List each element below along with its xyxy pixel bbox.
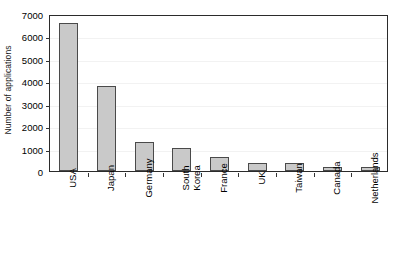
- bar-chart: Number of applications 01000200030004000…: [0, 0, 406, 257]
- x-axis-tick-label: Canada: [325, 178, 339, 256]
- x-axis-tick-label-text: Taiwan: [294, 163, 305, 193]
- y-axis-title-text: Number of applications: [3, 45, 13, 134]
- bar: [97, 86, 116, 171]
- x-axis-tick-label: Germany: [136, 178, 150, 256]
- y-axis-tick-mark: [46, 61, 50, 62]
- y-axis-tick-label: 2000: [22, 122, 43, 133]
- x-axis-tick-label: France: [212, 178, 226, 256]
- y-axis-tick-mark: [46, 128, 50, 129]
- y-axis-tick-label: 5000: [22, 54, 43, 65]
- y-axis-tick-mark: [46, 83, 50, 84]
- bar: [59, 23, 78, 171]
- x-axis-tick-label: Taiwan: [287, 178, 301, 256]
- y-axis-title: Number of applications: [0, 0, 16, 180]
- y-axis-tick-labels: 01000200030004000500060007000: [16, 15, 45, 172]
- x-axis-tick-label-text: France: [219, 163, 230, 193]
- x-axis-tick-label: Netherlands: [362, 178, 376, 256]
- x-axis-tick-label-text: Germany: [143, 158, 154, 197]
- bar: [248, 163, 267, 171]
- y-axis-tick-mark: [46, 38, 50, 39]
- x-axis-tick-mark: [88, 173, 89, 177]
- x-axis-tick-mark: [163, 173, 164, 177]
- y-axis-tick-label: 7000: [22, 10, 43, 21]
- y-axis-tick-mark: [46, 106, 50, 107]
- x-axis-tick-mark: [238, 173, 239, 177]
- x-axis-tick-label: Japan: [99, 178, 113, 256]
- x-axis-tick-label: UK: [249, 178, 263, 256]
- x-axis-tick-label-text: Canada: [332, 161, 343, 194]
- x-axis-tick-label: USA: [61, 178, 75, 256]
- plot-area: [49, 15, 388, 172]
- x-axis-tick-label-text: Netherlands: [369, 152, 380, 203]
- x-axis-tick-mark: [314, 173, 315, 177]
- x-axis-tick-labels: USAJapanGermanySouthKoreaFranceUKTaiwanC…: [49, 178, 388, 257]
- x-axis-tick-mark: [351, 173, 352, 177]
- x-axis-tick-label-text: UK: [256, 171, 267, 184]
- x-axis-tick-mark: [276, 173, 277, 177]
- x-axis-tick-label-text: USA: [68, 168, 79, 188]
- x-axis-tick-mark: [125, 173, 126, 177]
- x-axis-tick-label-line: Korea: [191, 165, 202, 190]
- x-axis-tick-label: SouthKorea: [174, 178, 188, 256]
- bars-group: [50, 16, 387, 171]
- y-axis-tick-label: 0: [38, 167, 43, 178]
- x-axis-tick-label-text: SouthKorea: [181, 165, 202, 190]
- y-axis-tick-label: 4000: [22, 77, 43, 88]
- y-axis-tick-label: 6000: [22, 32, 43, 43]
- y-axis-tick-label: 1000: [22, 144, 43, 155]
- x-axis-tick-label-text: Japan: [106, 165, 117, 191]
- y-axis-tick-label: 3000: [22, 99, 43, 110]
- y-axis-tick-mark: [46, 151, 50, 152]
